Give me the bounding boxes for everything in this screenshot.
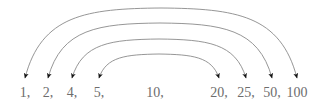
arc-2-to-50-right (160, 23, 272, 78)
sequence-item-25: 25, (237, 84, 255, 102)
sequence-item-10: 10, (146, 84, 164, 102)
number-sequence-row: 1, 2, 4, 5, 10, 20, 25, 50, 100 (0, 84, 320, 108)
arc-5-to-20-left (99, 54, 159, 78)
sequence-item-20: 20, (210, 84, 228, 102)
arc-5-to-20-right (159, 54, 219, 78)
arc-1-to-100-left (25, 8, 161, 78)
sequence-item-100: 100 (287, 84, 308, 102)
arc-2-to-50-left (48, 23, 160, 78)
sequence-item-50: 50, (263, 84, 281, 102)
arc-group (25, 8, 297, 78)
sequence-item-5: 5, (94, 84, 105, 102)
arc-1-to-100-right (161, 8, 297, 78)
arc-4-to-25-left (72, 39, 159, 78)
arc-4-to-25-right (159, 39, 246, 78)
sequence-item-1: 1, (20, 84, 31, 102)
sequence-item-2: 2, (43, 84, 54, 102)
arc-diagram-figure: 1, 2, 4, 5, 10, 20, 25, 50, 100 (0, 0, 320, 112)
sequence-item-4: 4, (67, 84, 78, 102)
